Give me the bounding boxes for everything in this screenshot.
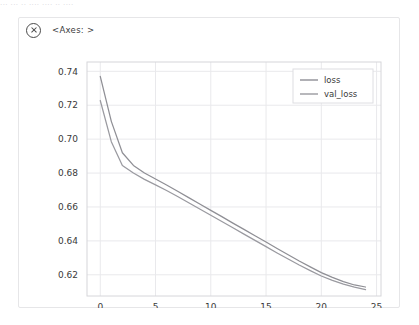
x-tick-label-5: 25 [371, 302, 382, 308]
y-tick-label-2: 0.66 [58, 202, 78, 212]
y-tick-label-5: 0.72 [58, 100, 78, 110]
y-tick-label-1: 0.64 [58, 236, 78, 246]
y-tick-label-0: 0.62 [58, 270, 78, 280]
x-tick-label-4: 20 [316, 302, 328, 308]
legend-label-loss[interactable]: loss [324, 75, 341, 85]
circled-x-icon[interactable] [26, 23, 41, 38]
x-tick-label-0: 0 [97, 302, 103, 308]
x-tick-label-1: 5 [153, 302, 159, 308]
matplotlib-figure: 0.620.640.660.680.700.720.740510152025lo… [19, 42, 401, 308]
screenshot-root: ··· ··· ·· ···· ···· ·· ···· <Axes: > 0.… [0, 0, 419, 325]
output-card: <Axes: > 0.620.640.660.680.700.720.74051… [18, 17, 400, 308]
series-line-loss [100, 76, 365, 287]
axes-repr-label: <Axes: > [52, 25, 94, 35]
x-tick-label-3: 15 [260, 302, 271, 308]
clipped-top-text: ··· ··· ·· ···· ···· ·· ···· [0, 0, 419, 11]
y-tick-label-6: 0.74 [58, 67, 78, 77]
y-tick-label-4: 0.70 [58, 134, 78, 144]
legend-label-val_loss[interactable]: val_loss [324, 89, 358, 99]
x-tick-label-2: 10 [205, 302, 217, 308]
y-tick-label-3: 0.68 [58, 168, 78, 178]
output-card-header: <Axes: > [19, 18, 399, 42]
series-line-val_loss [100, 100, 365, 289]
line-chart[interactable]: 0.620.640.660.680.700.720.740510152025lo… [19, 42, 401, 308]
